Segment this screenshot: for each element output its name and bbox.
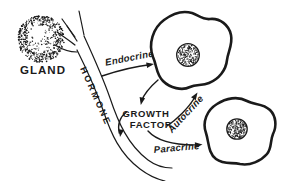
gland-label: GLAND bbox=[20, 64, 66, 76]
autocrine-label: Autocrine bbox=[165, 92, 206, 135]
paracrine-label: Paracrine bbox=[153, 140, 200, 155]
cell-to-growth-factor-arrowhead bbox=[138, 97, 145, 106]
growth-factor-label-line1: GROWTH bbox=[123, 108, 170, 119]
gland-illustration bbox=[18, 15, 65, 62]
cell-to-growth-factor-arrow bbox=[138, 80, 158, 106]
endocrine-arrowhead bbox=[146, 61, 154, 68]
diagram-canvas: HORMONE Endocrine GROWTH FACTOR Autocrin… bbox=[0, 0, 285, 181]
signaling-diagram: HORMONE Endocrine GROWTH FACTOR Autocrin… bbox=[0, 0, 285, 181]
